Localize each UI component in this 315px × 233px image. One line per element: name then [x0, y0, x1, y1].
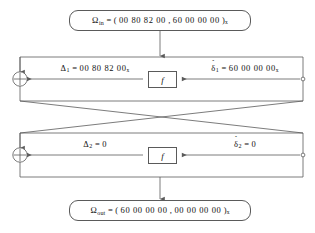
round1-delta-label: Δ1 = 00 80 82 00x — [40, 63, 150, 73]
xor-round-2 — [13, 148, 27, 162]
xor-round-1 — [13, 72, 27, 86]
input-right-half: 60 00 00 00 — [173, 15, 220, 25]
round1-f-function-box: f — [148, 71, 177, 88]
output-right-half: 00 00 00 00 — [174, 205, 221, 215]
round2-f-label: f — [161, 151, 164, 161]
output-base-subscript: x — [227, 210, 230, 216]
tap-round-1 — [301, 77, 305, 81]
output-omega-text: Ωout = ( 60 00 00 00 , 00 00 00 00 )x — [90, 205, 229, 215]
tap-round-2 — [301, 153, 305, 157]
wire-layer — [0, 0, 315, 233]
round1-delta-hat-accent: ̂ — [211, 59, 215, 65]
input-omega-box: Ωin = ( 00 80 82 00 , 60 00 00 00 )x — [69, 10, 251, 31]
round2-little-delta-label: ̂δ2 = 0 — [195, 139, 295, 149]
round2-delta-hat-accent: ̂ — [234, 135, 238, 141]
round1-little-delta-label: ̂δ1 = 60 00 00 00x — [190, 63, 300, 73]
output-left-half: 60 00 00 00 — [121, 205, 168, 215]
input-left-half: 00 80 82 00 — [119, 15, 166, 25]
output-omega-subscript: out — [97, 210, 106, 216]
round1-f-label: f — [161, 75, 164, 85]
input-omega-text: Ωin = ( 00 80 82 00 , 60 00 00 00 )x — [92, 15, 228, 25]
output-omega-box: Ωout = ( 60 00 00 00 , 00 00 00 00 )x — [69, 200, 251, 221]
round2-delta-label: Δ2 = 0 — [45, 139, 145, 149]
round2-f-function-box: f — [148, 147, 177, 164]
input-base-subscript: x — [225, 20, 228, 26]
feistel-characteristic-diagram: Ωin = ( 00 80 82 00 , 60 00 00 00 )x Δ1 … — [0, 0, 315, 233]
